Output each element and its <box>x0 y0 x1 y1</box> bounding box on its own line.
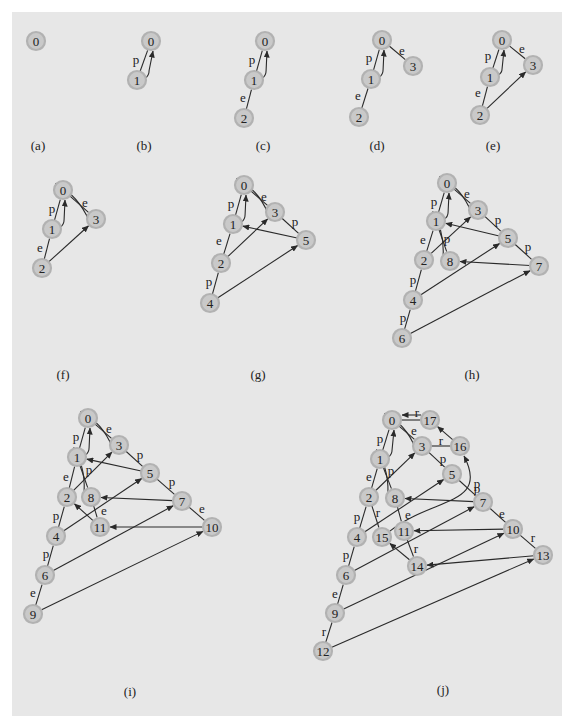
edge-9-6 <box>338 585 344 605</box>
edge-label-p: p <box>485 48 492 63</box>
edge-4-2 <box>360 507 367 529</box>
edge-1-0 <box>444 193 449 219</box>
node-4: 4 <box>404 291 422 309</box>
nodes: 01234567891011121314151617 <box>314 411 552 660</box>
edge-1-0 <box>79 428 85 449</box>
node-label: 6 <box>42 568 49 583</box>
edge-label-p: p <box>343 547 350 562</box>
node-label: 3 <box>419 439 426 454</box>
node-label: 1 <box>251 73 258 88</box>
node-11: 11 <box>395 522 413 540</box>
node-label: 3 <box>475 203 482 218</box>
edge-label-e: e <box>519 41 525 56</box>
edges: peepp <box>206 178 299 298</box>
edge-label-e: e <box>420 232 426 247</box>
node-0: 0 <box>235 176 253 194</box>
edge-2-1 <box>427 231 433 252</box>
node-0: 0 <box>373 31 391 49</box>
panel-c: pe012(c) <box>235 32 274 153</box>
node-3: 3 <box>469 201 487 219</box>
node-2: 2 <box>58 488 76 506</box>
edge-label-p: p <box>525 239 532 254</box>
panel-j: peepppppeeerrprrrr0123456789101112131415… <box>314 405 552 697</box>
node-label: 2 <box>64 490 71 505</box>
node-15: 15 <box>373 528 391 546</box>
edge-label-p: p <box>73 429 80 444</box>
node-0: 0 <box>256 32 274 50</box>
edge-label-e: e <box>82 195 88 210</box>
edge-11-14 <box>407 539 413 556</box>
edge-1-0 <box>140 50 148 71</box>
node-6: 6 <box>337 566 355 584</box>
panel-a: 0(a) <box>27 32 45 153</box>
node-0: 0 <box>54 181 72 199</box>
node-2: 2 <box>235 109 253 127</box>
edge-9-10 <box>41 531 203 610</box>
panel-caption: (c) <box>256 138 270 153</box>
node-label: 0 <box>85 411 92 426</box>
node-11: 11 <box>91 518 109 536</box>
edge-label-p: p <box>388 463 395 478</box>
node-2: 2 <box>471 106 489 124</box>
edge-label-p: p <box>43 546 50 561</box>
edge-4-2 <box>212 273 218 295</box>
edge-label-p: p <box>444 231 451 246</box>
node-label: 12 <box>317 644 330 659</box>
edge-label-p: p <box>133 52 140 67</box>
edge-label-r: r <box>439 433 444 448</box>
node-label: 6 <box>343 568 350 583</box>
edge-label-r: r <box>376 505 381 520</box>
node-1: 1 <box>362 70 380 88</box>
panel-f: pee0123(f) <box>33 181 105 382</box>
edge-2-1 <box>69 467 74 489</box>
edge-1-0 <box>85 428 90 455</box>
node-label: 7 <box>480 495 487 510</box>
edge-label-p: p <box>400 310 407 325</box>
node-4: 4 <box>348 528 366 546</box>
edge-1-0 <box>379 50 384 77</box>
node-4: 4 <box>47 527 65 545</box>
panel-caption: (b) <box>136 138 151 153</box>
node-9: 9 <box>24 605 42 623</box>
node-3: 3 <box>87 210 105 228</box>
node-label: 1 <box>487 70 494 85</box>
edge-2-1 <box>372 469 378 489</box>
node-5: 5 <box>297 231 315 249</box>
edge-label-e: e <box>240 90 246 105</box>
node-label: 0 <box>444 176 451 191</box>
node-label: 13 <box>537 548 550 563</box>
node-label: 0 <box>241 178 248 193</box>
node-label: 2 <box>366 490 373 505</box>
node-label: 2 <box>477 108 484 123</box>
edge-label-p: p <box>495 212 502 227</box>
panel-h: peeppppp012345678(h) <box>393 174 548 382</box>
edge-label-e: e <box>101 503 107 518</box>
node-7: 7 <box>173 492 191 510</box>
node-label: 2 <box>421 253 428 268</box>
edge-label-e: e <box>30 585 36 600</box>
edge-4-2 <box>58 507 64 528</box>
node-3: 3 <box>524 56 542 74</box>
edge-1-0 <box>373 50 379 71</box>
node-label: 0 <box>262 34 269 49</box>
node-8: 8 <box>82 488 100 506</box>
node-label: 3 <box>272 205 279 220</box>
node-0: 0 <box>79 409 97 427</box>
node-2: 2 <box>33 259 51 277</box>
panel-g: peepp012345(g) <box>201 176 315 382</box>
panel-d: pee0123(d) <box>350 31 422 153</box>
node-2: 2 <box>415 251 433 269</box>
node-label: 1 <box>74 450 81 465</box>
edge-2-1 <box>362 89 368 109</box>
node-label: 16 <box>454 439 468 454</box>
edge-5-1 <box>243 226 297 238</box>
panel-e: pee0123(e) <box>471 31 542 153</box>
edge-1-0 <box>439 193 445 213</box>
edge-label-e: e <box>464 186 470 201</box>
node-label: 11 <box>398 524 411 539</box>
node-label: 7 <box>179 494 186 509</box>
node-label: 8 <box>392 491 399 506</box>
node-label: 17 <box>424 413 438 428</box>
node-label: 5 <box>505 231 512 246</box>
node-label: 9 <box>30 607 37 622</box>
